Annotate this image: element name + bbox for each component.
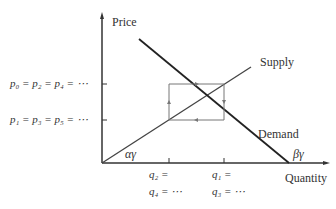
supply-label: Supply [260,56,294,68]
price-low-label: p₁ = p₃ = p₅ = ⋯ [10,114,88,125]
y-axis-label: Price [112,16,137,28]
q-left-line2: q₄ = ⋯ [149,186,182,197]
demand-label: Demand [258,128,299,140]
x-axis-label: Quantity [285,172,327,184]
x-axis-arrow-icon [323,161,330,165]
q-right-line2: q₃ = ⋯ [212,186,245,197]
alpha-gamma-label: αγ [125,148,136,160]
beta-gamma-label: βγ [293,148,304,160]
price-high-label: p₀ = p₂ = p₄ = ⋯ [10,78,88,89]
q-right-line1: q₁ = [212,169,232,180]
y-axis-arrow-icon [100,12,104,19]
q-left-line1: q₂ = [149,169,169,180]
